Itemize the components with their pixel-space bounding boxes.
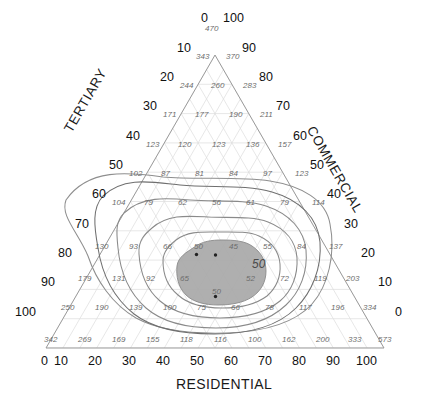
tick-bottom-70: 70: [258, 355, 272, 368]
data-value: 52: [246, 275, 255, 283]
data-value: 179: [78, 275, 91, 283]
data-value: 470: [205, 25, 218, 33]
data-value: 104: [112, 199, 125, 207]
data-value: 66: [163, 243, 172, 251]
data-value: 97: [263, 170, 272, 178]
tick-left-80: 80: [58, 247, 72, 260]
tick-bottom-0: 0: [41, 355, 48, 368]
data-value: 62: [178, 199, 187, 207]
data-value: 102: [129, 170, 142, 178]
data-value: 334: [363, 304, 376, 312]
data-value: 50: [194, 243, 203, 251]
data-value: 55: [263, 243, 272, 251]
data-value: 119: [314, 275, 327, 283]
data-value: 573: [378, 336, 391, 344]
tick-left-90: 90: [41, 276, 55, 289]
data-value: 190: [229, 111, 242, 119]
data-value: 100: [248, 336, 261, 344]
data-value: 78: [265, 304, 274, 312]
tick-right-40: 40: [327, 188, 341, 201]
data-value: 65: [180, 275, 189, 283]
tick-left-30: 30: [143, 100, 157, 113]
tick-bottom-60: 60: [224, 355, 238, 368]
tick-bottom-80: 80: [292, 355, 306, 368]
data-value: 93: [129, 243, 138, 251]
data-value: 196: [331, 304, 344, 312]
tick-bottom-40: 40: [156, 355, 170, 368]
tick-left-0: 0: [201, 12, 208, 25]
data-value: 92: [146, 275, 155, 283]
data-value: 131: [112, 275, 125, 283]
data-value: 45: [229, 243, 238, 251]
data-value: 81: [195, 170, 204, 178]
data-value: 56: [212, 199, 221, 207]
data-value: 136: [246, 141, 259, 149]
ternary-contour-figure: TERTIARY COMMERCIAL RESIDENTIAL 0 10 20 …: [0, 0, 433, 402]
data-value: 130: [95, 243, 108, 251]
data-value: 79: [144, 199, 153, 207]
tick-left-40: 40: [126, 130, 140, 143]
tick-right-80: 80: [259, 71, 273, 84]
tick-right-70: 70: [276, 100, 290, 113]
data-value: 343: [196, 53, 209, 61]
data-value: 116: [214, 336, 227, 344]
tick-bottom-20: 20: [88, 355, 102, 368]
data-value: 75: [197, 304, 206, 312]
tick-bottom-30: 30: [122, 355, 136, 368]
tick-bottom-10: 10: [54, 355, 68, 368]
data-value: 137: [329, 243, 342, 251]
tick-left-100: 100: [15, 306, 36, 319]
data-value: 211: [260, 111, 273, 119]
data-value: 169: [112, 336, 125, 344]
data-value: 123: [295, 170, 308, 178]
data-value: 370: [226, 53, 239, 61]
tick-right-0: 0: [395, 306, 402, 319]
data-value: 200: [316, 336, 329, 344]
tick-right-90: 90: [242, 42, 256, 55]
tick-right-30: 30: [344, 218, 358, 231]
tick-bottom-50: 50: [190, 355, 204, 368]
contour-label-50: 50: [252, 258, 265, 270]
tick-bottom-100: 100: [356, 355, 377, 368]
data-value: 250: [61, 304, 74, 312]
tick-right-100: 100: [223, 12, 244, 25]
data-value: 72: [280, 275, 289, 283]
data-value: 84: [229, 170, 238, 178]
data-value: 66: [231, 304, 240, 312]
data-value: 123: [212, 141, 225, 149]
tick-right-50: 50: [310, 159, 324, 172]
data-value: 118: [180, 336, 193, 344]
data-value: 171: [163, 111, 176, 119]
data-value: 260: [211, 82, 224, 90]
data-value: 117: [299, 304, 312, 312]
tick-left-70: 70: [75, 218, 89, 231]
data-value: 50: [212, 288, 221, 296]
data-value: 190: [95, 304, 108, 312]
data-value: 333: [348, 336, 361, 344]
data-value: 114: [312, 199, 325, 207]
data-value: 123: [146, 141, 159, 149]
data-value: 283: [243, 82, 256, 90]
tick-bottom-90: 90: [326, 355, 340, 368]
tick-left-60: 60: [92, 188, 106, 201]
data-value: 87: [161, 170, 170, 178]
tick-right-60: 60: [293, 130, 307, 143]
data-value: 155: [146, 336, 159, 344]
data-value: 61: [246, 199, 255, 207]
data-value: 139: [129, 304, 142, 312]
data-value: 269: [78, 336, 91, 344]
data-value: 342: [44, 336, 57, 344]
data-value: 162: [282, 336, 295, 344]
data-value: 177: [195, 111, 208, 119]
data-value: 157: [278, 141, 291, 149]
tick-left-50: 50: [109, 159, 123, 172]
data-value: 79: [280, 199, 289, 207]
data-value: 203: [346, 275, 359, 283]
data-value: 84: [297, 243, 306, 251]
filled-minimum-region: [177, 240, 266, 305]
axis-label-residential: RESIDENTIAL: [176, 377, 272, 391]
tick-left-10: 10: [177, 42, 191, 55]
tick-right-10: 10: [378, 276, 392, 289]
data-value: 120: [178, 141, 191, 149]
data-value: 244: [180, 82, 193, 90]
